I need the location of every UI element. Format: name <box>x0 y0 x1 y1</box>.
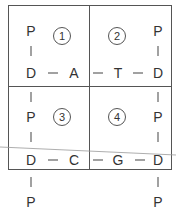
node-a-row1: A <box>69 66 78 80</box>
connector-vertical <box>158 46 159 56</box>
connector-horizontal <box>133 73 143 74</box>
node-p-mid-left: P <box>26 110 35 124</box>
connector-horizontal <box>48 160 58 161</box>
connector-vertical <box>158 132 159 142</box>
node-c-row2: C <box>69 153 79 167</box>
quadrant-4-badge: 4 <box>108 108 126 126</box>
connector-horizontal <box>93 73 103 74</box>
connector-vertical <box>158 92 159 102</box>
connector-horizontal <box>48 73 58 74</box>
connector-vertical <box>31 92 32 102</box>
connector-vertical <box>31 46 32 56</box>
grid-horizontal-divider <box>8 86 172 87</box>
node-p-top-left: P <box>26 24 35 38</box>
connector-horizontal <box>135 160 145 161</box>
node-t-row1: T <box>114 66 123 80</box>
connector-horizontal <box>93 160 103 161</box>
connector-vertical <box>31 177 32 187</box>
node-g-row2: G <box>113 153 124 167</box>
quadrant-1-badge: 1 <box>53 27 71 45</box>
node-d-row1-right: D <box>153 66 163 80</box>
node-p-bottom-right: P <box>153 195 162 209</box>
quadrant-3-badge: 3 <box>53 108 71 126</box>
connector-vertical <box>158 177 159 187</box>
quadrant-2-badge: 2 <box>108 27 126 45</box>
connector-vertical <box>31 132 32 142</box>
node-p-mid-right: P <box>153 110 162 124</box>
grid-vertical-divider <box>89 5 90 170</box>
node-p-bottom-left: P <box>26 195 35 209</box>
node-d-row2-right: D <box>153 153 163 167</box>
node-d-row2-left: D <box>26 153 36 167</box>
node-d-row1-left: D <box>26 66 36 80</box>
node-p-top-right: P <box>153 24 162 38</box>
